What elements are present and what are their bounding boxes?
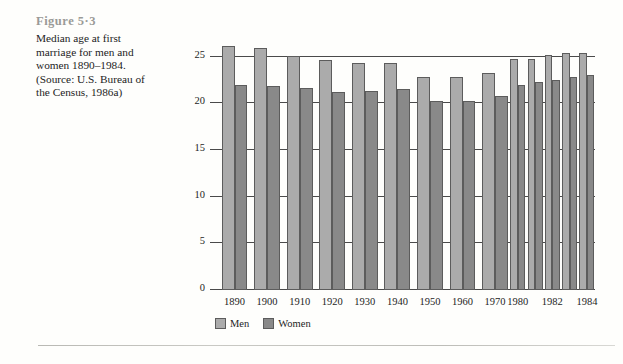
- figure-caption-block: Figure 5·3 Median age at first marriage …: [36, 14, 154, 100]
- legend-swatch-women-icon: [263, 318, 274, 329]
- bars-layer: [210, 38, 595, 290]
- bar-men-1910: [287, 56, 300, 290]
- x-tick-label-1930: 1930: [354, 296, 375, 307]
- legend-label-men: Men: [230, 318, 249, 329]
- bar-women-1930: [365, 91, 378, 290]
- x-tick-label-1950: 1950: [419, 296, 440, 307]
- bar-men-1930: [352, 63, 365, 290]
- bar-women-1940: [397, 89, 410, 290]
- x-tick-label-1910: 1910: [289, 296, 310, 307]
- legend-item-men: Men: [215, 318, 249, 329]
- bar-women-1970: [495, 96, 508, 290]
- bar-women-1980: [518, 85, 525, 290]
- y-tick-label-15: 15: [195, 142, 206, 153]
- bar-men-1960: [450, 77, 463, 290]
- chart-area: 0510152025 18901900191019201930194019501…: [170, 8, 615, 328]
- figure-caption-text: Median age at first marriage for men and…: [36, 32, 154, 100]
- y-tick-label-20: 20: [195, 96, 206, 107]
- figure-number-label: Figure 5·3: [36, 14, 154, 29]
- bar-men-1983: [562, 53, 569, 290]
- plot-box: 0510152025 18901900191019201930194019501…: [210, 38, 595, 290]
- bar-women-1981: [535, 82, 542, 290]
- bar-women-1960: [463, 101, 476, 290]
- bar-women-1982: [552, 80, 559, 290]
- x-tick-label-1970: 1970: [485, 296, 506, 307]
- bar-men-1970: [482, 73, 495, 290]
- bar-men-1980: [510, 59, 517, 290]
- legend-item-women: Women: [263, 318, 310, 329]
- bar-men-1920: [319, 60, 332, 290]
- x-axis-labels: 1890190019101920193019401950196019701980…: [210, 290, 595, 314]
- y-tick-label-5: 5: [200, 236, 205, 247]
- bar-women-1950: [430, 101, 443, 290]
- x-tick-label-1900: 1900: [257, 296, 278, 307]
- chart-legend: Men Women: [215, 318, 311, 329]
- bar-men-1890: [222, 46, 235, 290]
- bar-women-1984: [587, 75, 594, 290]
- bar-men-1982: [545, 55, 552, 290]
- x-tick-label-1960: 1960: [452, 296, 473, 307]
- x-tick-label-1982: 1982: [542, 296, 563, 307]
- x-tick-label-1984: 1984: [576, 296, 597, 307]
- x-tick-label-1920: 1920: [322, 296, 343, 307]
- legend-label-women: Women: [278, 318, 310, 329]
- x-tick-label-1980: 1980: [507, 296, 528, 307]
- y-tick-label-25: 25: [195, 49, 206, 60]
- y-tick-label-10: 10: [195, 189, 206, 200]
- bar-men-1940: [384, 63, 397, 290]
- bar-men-1984: [579, 53, 586, 290]
- x-tick-label-1890: 1890: [224, 296, 245, 307]
- x-tick-label-1940: 1940: [387, 296, 408, 307]
- page-divider-rule: [38, 345, 615, 346]
- bar-women-1920: [332, 92, 345, 290]
- bar-women-1900: [267, 86, 280, 290]
- bar-men-1950: [417, 77, 430, 290]
- legend-swatch-men-icon: [215, 318, 226, 329]
- figure-container: Figure 5·3 Median age at first marriage …: [0, 0, 623, 364]
- bar-women-1983: [570, 77, 577, 290]
- bar-men-1900: [254, 48, 267, 290]
- bar-women-1890: [235, 85, 248, 290]
- y-tick-label-0: 0: [200, 282, 205, 293]
- bar-men-1981: [528, 59, 535, 290]
- bar-women-1910: [300, 88, 313, 290]
